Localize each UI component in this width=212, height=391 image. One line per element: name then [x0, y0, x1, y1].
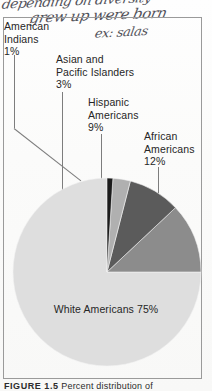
label-hispanic-americans: Hispanic Americans 9% [88, 96, 139, 134]
figure-page: depending on diversity grew up were born… [0, 0, 212, 391]
pie-chart-svg [12, 177, 202, 367]
label-american-indians: American Indians 1% [4, 20, 49, 58]
label-white-americans: White Americans 75% [0, 303, 212, 315]
figure-caption: FIGURE 1.5 Percent distribution of [4, 381, 209, 391]
label-african-americans: African Americans 12% [144, 130, 195, 168]
label-asian-and-pacific-islanders: Asian and Pacific Islanders 3% [56, 53, 134, 91]
figure-caption-label: FIGURE 1.5 [4, 381, 59, 391]
figure-caption-body: Percent distribution of [61, 381, 153, 391]
pie-chart [12, 177, 202, 367]
